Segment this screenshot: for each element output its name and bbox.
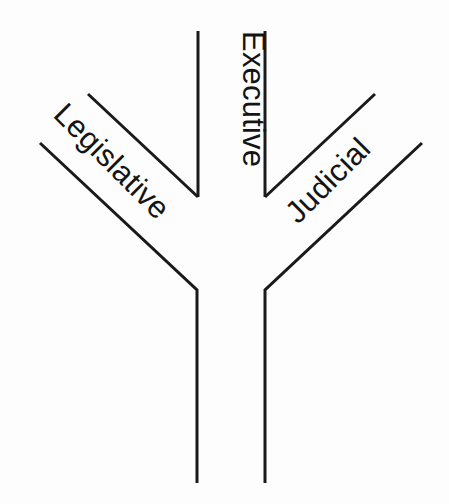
tree-graphic: Legislative Executive Judicial [0, 0, 449, 504]
legislative-outer-stroke [40, 143, 197, 483]
judicial-label: Judicial [278, 131, 377, 230]
executive-label: Executive [236, 31, 271, 167]
government-branches-diagram: Legislative Executive Judicial [0, 0, 449, 504]
